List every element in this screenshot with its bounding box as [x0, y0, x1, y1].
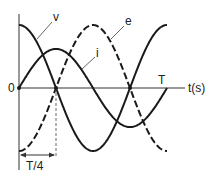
e-leader-line	[111, 26, 124, 39]
v-label: v	[53, 10, 59, 24]
origin-point	[17, 86, 21, 90]
crossing-point	[128, 86, 132, 90]
time-axis-label: t(s)	[188, 81, 205, 95]
e-label: e	[125, 14, 132, 28]
origin-label: 0	[8, 81, 15, 95]
i-label: i	[96, 46, 99, 60]
i-leader-line	[82, 57, 95, 69]
waveform-diagram: v e i 0 T t(s) T/4	[0, 0, 215, 175]
quarter-period-label: T/4	[26, 159, 44, 173]
v-leader-line	[37, 22, 52, 39]
arrowhead-right-icon	[49, 153, 55, 158]
arrowhead-left-icon	[20, 153, 26, 158]
period-label: T	[158, 73, 166, 87]
crossing-point	[54, 86, 58, 90]
